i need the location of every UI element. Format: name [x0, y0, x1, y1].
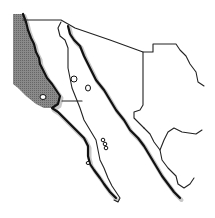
island [104, 146, 108, 150]
island [86, 162, 90, 165]
map [0, 0, 215, 218]
chihuahua-durango-border [160, 128, 202, 150]
island [86, 85, 91, 91]
baja-west-coastline [23, 14, 116, 198]
us-mexico-border [23, 20, 204, 86]
island [71, 76, 77, 82]
pacific-ocean-shaded-area [13, 14, 60, 108]
island [101, 138, 105, 142]
sonora-chihuahua-border [134, 52, 144, 128]
island [103, 142, 107, 146]
baja-gulf-coastline [58, 22, 120, 202]
island [40, 95, 46, 100]
